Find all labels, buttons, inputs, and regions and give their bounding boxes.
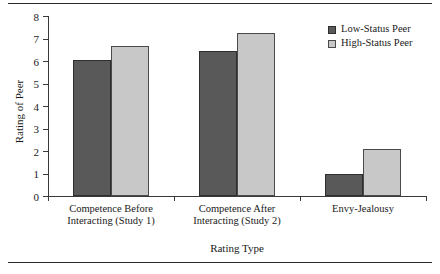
y-axis-tick-label: 6: [34, 56, 40, 67]
legend-item: High-Status Peer: [328, 37, 412, 50]
y-axis-tick: 5: [43, 84, 48, 85]
y-axis-tick: 1: [43, 174, 48, 175]
y-axis-tick-label: 5: [34, 79, 40, 90]
legend-swatch-icon: [328, 40, 336, 48]
y-axis-tick: 3: [43, 129, 48, 130]
y-axis-tick: 6: [43, 61, 48, 62]
x-axis-tick: [300, 196, 301, 201]
x-axis-tick: [48, 196, 49, 201]
y-axis-tick-label: 7: [34, 34, 40, 45]
y-axis-tick-label: 8: [34, 11, 40, 22]
category-label-line: Envy-Jealousy: [288, 203, 438, 215]
legend-item-label: Low-Status Peer: [341, 24, 411, 35]
chart-legend: Low-Status PeerHigh-Status Peer: [328, 23, 412, 51]
y-axis-tick-label: 2: [34, 146, 40, 157]
bar: [363, 149, 401, 196]
x-axis-tick: [426, 196, 427, 201]
bar: [237, 33, 275, 196]
y-axis-tick: 7: [43, 39, 48, 40]
bar: [325, 174, 363, 197]
x-axis-title: Rating Type: [48, 243, 426, 254]
bar: [73, 60, 111, 196]
y-axis-tick-label: 1: [34, 169, 40, 180]
y-axis-tick: 2: [43, 151, 48, 152]
y-axis-title: Rating of Peer: [14, 52, 25, 172]
y-axis-tick: 4: [43, 106, 48, 107]
bar: [199, 51, 237, 196]
y-axis-tick-label: 3: [34, 124, 40, 135]
bar: [111, 46, 149, 196]
legend-item-label: High-Status Peer: [341, 38, 412, 49]
x-axis-category-label: Envy-Jealousy: [288, 203, 438, 215]
x-axis-tick: [174, 196, 175, 201]
bar-chart-plot-area: 012345678 Rating of Peer Rating Type Com…: [0, 0, 440, 274]
legend-item: Low-Status Peer: [328, 23, 412, 36]
y-axis-line: [48, 16, 49, 197]
y-axis-tick-label: 0: [34, 191, 40, 202]
figure-container: 012345678 Rating of Peer Rating Type Com…: [0, 0, 440, 274]
x-axis-line: [48, 196, 426, 197]
y-axis-tick-label: 4: [34, 101, 40, 112]
legend-swatch-icon: [328, 26, 336, 34]
y-axis-tick: 8: [43, 16, 48, 17]
category-label-line: Interacting (Study 2): [162, 215, 312, 227]
